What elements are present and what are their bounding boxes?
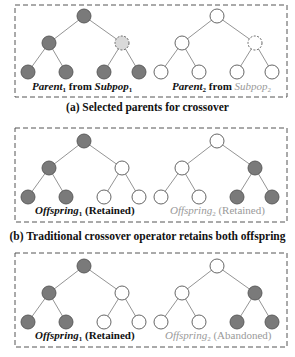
tree-node (132, 190, 146, 204)
tree-node (192, 315, 206, 329)
tree-node (248, 286, 262, 300)
tree-node (265, 65, 279, 79)
offspring1-name-b: Offspring (35, 204, 79, 216)
tree-node (97, 65, 111, 79)
tree-node (248, 161, 262, 175)
parent1-label: Parent1 from Subpop1 (32, 80, 132, 94)
tree-node (77, 259, 91, 273)
tree-node (154, 65, 168, 79)
tree-node (210, 259, 224, 273)
tree-node (230, 65, 244, 79)
tree-node (42, 286, 56, 300)
parent1-name: Parent (32, 80, 63, 92)
tree-node (154, 190, 168, 204)
offspring1-name-c: Offspring (35, 329, 79, 341)
tree-node (230, 190, 244, 204)
tree-node (115, 36, 129, 50)
tree-node (154, 315, 168, 329)
tree-node (97, 190, 111, 204)
offspring2-label-b: Offspring2 (Retained) (170, 204, 265, 218)
offspring2-name-b: Offspring (170, 204, 212, 216)
tree-node (265, 190, 279, 204)
tree-node (210, 134, 224, 148)
tree-node (132, 315, 146, 329)
tree-node (77, 9, 91, 23)
offspring1-label-b: Offspring1 (Retained) (35, 204, 135, 218)
tree-node (21, 315, 35, 329)
offspring1-status-b: (Retained) (82, 204, 134, 216)
tree-node (97, 315, 111, 329)
offspring1-status-c: (Retained) (82, 329, 134, 341)
tree-node (21, 65, 35, 79)
tree-node (132, 65, 146, 79)
caption-b: (b) Traditional crossover operator retai… (0, 230, 295, 242)
tree-node (265, 315, 279, 329)
tree-node (192, 190, 206, 204)
crossover-diagram (0, 0, 295, 357)
tree-node (248, 36, 262, 50)
tree-node (230, 315, 244, 329)
tree-node (59, 190, 73, 204)
tree-node (21, 190, 35, 204)
parent2-label: Parent2 from Subpop2 (172, 80, 271, 94)
tree-node (77, 134, 91, 148)
offspring1-label-c: Offspring1 (Retained) (35, 329, 135, 343)
tree-node (42, 161, 56, 175)
tree-node (175, 161, 189, 175)
tree-node (115, 161, 129, 175)
parent1-subpop: Subpop (95, 80, 129, 92)
offspring2-status-b: (Retained) (216, 204, 265, 216)
tree-node (59, 315, 73, 329)
parent2-subpop: Subpop (235, 80, 268, 92)
tree-node (42, 36, 56, 50)
offspring2-label-c: Offspring2 (Abandoned) (165, 329, 271, 343)
tree-node (59, 65, 73, 79)
offspring2-name-c: Offspring (165, 329, 207, 341)
caption-a: (a) Selected parents for crossover (0, 101, 295, 113)
parent2-name: Parent (172, 80, 203, 92)
tree-node (192, 65, 206, 79)
tree-node (175, 286, 189, 300)
parent1-subpop-sub: 1 (129, 86, 133, 94)
tree-node (175, 36, 189, 50)
tree-node (210, 9, 224, 23)
offspring2-status-c: (Abandoned) (211, 329, 272, 341)
parent1-from: from (66, 80, 95, 92)
parent2-from: from (206, 80, 235, 92)
tree-node (115, 286, 129, 300)
parent2-subpop-sub: 2 (268, 86, 272, 94)
